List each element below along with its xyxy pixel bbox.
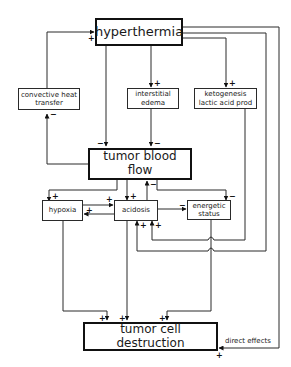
- node-tumor-cell-destruction: tumor cell destruction: [83, 322, 218, 351]
- node-energetic-status: energetic status: [187, 200, 231, 220]
- diagram-connectors: [0, 0, 291, 367]
- edge-bloodflow-to-energetic: [157, 180, 226, 200]
- node-hyperthermia: hyperthermia: [95, 18, 183, 46]
- sign-plus-convective-hyperthermia: +: [88, 35, 95, 43]
- node-tumor-blood-flow: tumor blood flow: [88, 148, 192, 180]
- sign-minus-acidosis-energetic: −: [179, 202, 186, 210]
- sign-plus-acidosis-hypoxia: +: [86, 207, 93, 215]
- edge-energetic-to-destruction: [167, 220, 211, 320]
- node-label: tumor blood flow: [90, 150, 190, 178]
- sign-minus-edema-bloodflow: −: [154, 140, 161, 148]
- edge-hypoxia-to-destruction: [63, 221, 107, 320]
- node-label: hypoxia: [49, 206, 76, 214]
- edge-convective-to-hyperthermia: [47, 32, 94, 88]
- sign-plus-hyperthermia-ketogenesis: +: [229, 80, 236, 88]
- edge-hyperthermia-direct-effects: [182, 27, 279, 348]
- sign-plus-hyperthermia-edema: +: [154, 80, 161, 88]
- node-acidosis: acidosis: [114, 200, 158, 221]
- node-ketogenesis: ketogenesis lactic acid prod: [194, 88, 257, 109]
- node-label: energetic status: [192, 202, 225, 218]
- node-label: tumor cell destruction: [85, 323, 216, 351]
- node-hypoxia: hypoxia: [42, 200, 83, 221]
- sign-plus-hyperthermia-acidosis: +: [140, 222, 147, 230]
- node-label: acidosis: [122, 206, 150, 214]
- sign-minus-acidosis-bloodflow: −: [150, 181, 157, 189]
- sign-plus-acidosis-destruction: +: [119, 315, 126, 323]
- sign-minus-hyperthermia-bloodflow: −: [97, 140, 104, 148]
- node-interstitial-edema: interstitial edema: [127, 88, 179, 109]
- sign-minus-bloodflow-convective: −: [50, 111, 57, 119]
- sign-plus-hypoxia-destruction: +: [99, 315, 106, 323]
- direct-effects-label: direct effects: [225, 337, 271, 345]
- edge-hyperthermia-to-ketogenesis: [182, 38, 226, 87]
- sign-plus-direct-effects: +: [216, 352, 223, 360]
- edge-bloodflow-to-convective: [47, 114, 88, 164]
- node-label: interstitial edema: [135, 90, 171, 106]
- sign-plus-ketogenesis-acidosis: +: [155, 222, 162, 230]
- sign-minus-bloodflow-energetic: −: [229, 193, 236, 201]
- node-label: ketogenesis lactic acid prod: [199, 90, 253, 106]
- node-label: hyperthermia: [95, 25, 183, 40]
- node-convective-heat-transfer: convective heat transfer: [18, 88, 80, 110]
- sign-plus-hypoxia-acidosis: +: [106, 196, 113, 204]
- sign-plus-bloodflow-hypoxia: +: [52, 193, 59, 201]
- node-label: convective heat transfer: [21, 91, 77, 107]
- sign-plus-energetic-destruction: +: [159, 315, 166, 323]
- sign-plus-bloodflow-acidosis: +: [130, 193, 137, 201]
